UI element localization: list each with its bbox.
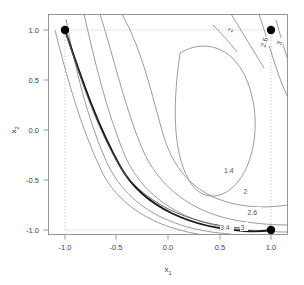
contour-plot-figure: 1.4 2 2.6 3 3.4 2 2.6 3: [0, 0, 304, 285]
data-point-bottom-right: [267, 226, 275, 234]
contour-label-1_4: 1.4: [224, 167, 234, 174]
y-tick-label-0: 1.0: [29, 26, 39, 35]
y-tick-label-4: -1.0: [26, 226, 39, 235]
y-axis-title-sub: 2: [14, 126, 20, 129]
y-tick-label-1: 0.5: [29, 76, 39, 85]
contour-label-2_6-lower: 2.6: [248, 209, 258, 216]
y-tick-label-3: -0.5: [26, 176, 39, 185]
contour-label-3-lower: 3: [241, 224, 245, 231]
contour-label-3_4-lower: 3.4: [220, 224, 230, 231]
data-point-top-left: [61, 26, 69, 34]
x-tick-label-2: 0.0: [163, 243, 173, 252]
x-tick-label-1: -0.5: [110, 243, 123, 252]
x-tick-label-3: 0.5: [215, 243, 225, 252]
x-tick-label-4: 1.0: [266, 243, 276, 252]
x-tick-label-0: -1.0: [59, 243, 72, 252]
y-tick-label-2: 0.0: [29, 126, 39, 135]
contour-label-2-lower: 2: [244, 188, 248, 195]
data-point-top-right: [267, 26, 275, 34]
plot-canvas: 1.4 2 2.6 3 3.4 2 2.6 3: [0, 0, 304, 285]
x-axis-title-sub: 1: [168, 270, 171, 276]
